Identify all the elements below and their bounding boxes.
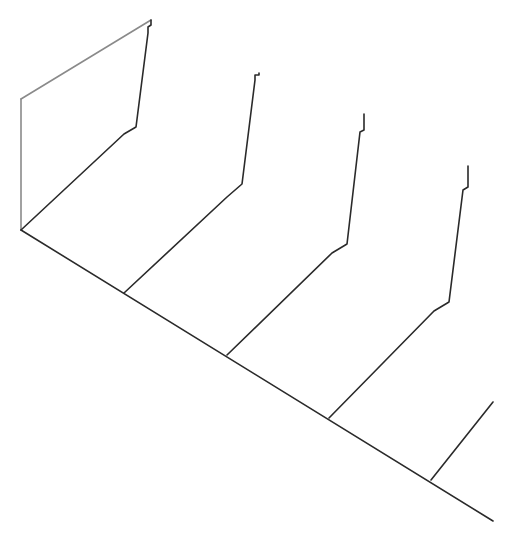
back-frame-top-edge bbox=[21, 20, 151, 99]
waterfall-diagram bbox=[0, 0, 518, 536]
slice-1 bbox=[21, 20, 151, 230]
slice-5 bbox=[431, 402, 493, 480]
slice-4 bbox=[329, 166, 468, 418]
slice-2 bbox=[124, 73, 259, 293]
baseline-axis bbox=[21, 230, 493, 521]
slice-3 bbox=[227, 114, 364, 355]
slice-group bbox=[21, 20, 493, 480]
